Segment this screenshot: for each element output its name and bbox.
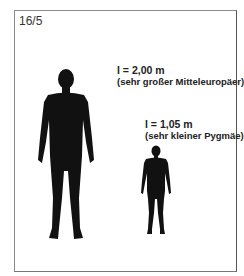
short-height-value: l = 1,05 m [145,118,244,130]
tall-person-silhouette [34,68,98,244]
short-description: (sehr kleiner Pygmäe) [145,130,244,142]
tall-height-value: l = 2,00 m [117,64,244,76]
short-person-silhouette [138,145,174,237]
short-person-label: l = 1,05 m (sehr kleiner Pygmäe) [145,118,244,142]
tall-description: (sehr großer Mitteleuropäer) [117,76,244,88]
figure-number: 16/5 [19,14,42,28]
tall-person-label: l = 2,00 m (sehr großer Mitteleuropäer) [117,64,244,88]
